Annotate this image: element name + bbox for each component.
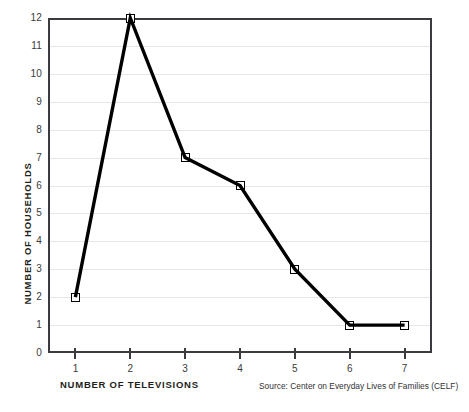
gridline	[50, 130, 430, 131]
gridline	[50, 297, 430, 298]
gridline	[50, 46, 430, 47]
line-chart: NUMBER OF HOUSEHOLDS 0123456789101112 12…	[0, 0, 469, 412]
x-tick-label: 2	[120, 363, 140, 374]
plot-area	[48, 18, 432, 353]
x-axis-title: NUMBER OF TELEVISIONS	[60, 379, 199, 390]
y-tick-label: 3	[8, 263, 42, 274]
y-axis-title: NUMBER OF HOUSEHOLDS	[22, 114, 33, 354]
y-tick-label: 10	[8, 68, 42, 79]
gridline	[50, 213, 430, 214]
y-tick-label: 2	[8, 291, 42, 302]
x-tick-mark	[294, 348, 296, 359]
x-tick-mark	[184, 348, 186, 359]
gridline	[50, 74, 430, 75]
x-tick-mark	[129, 348, 131, 359]
gridline	[50, 241, 430, 242]
x-tick-label: 3	[175, 363, 195, 374]
x-tick-label: 6	[340, 363, 360, 374]
gridline	[50, 325, 430, 326]
data-point-marker	[181, 153, 190, 162]
y-tick-label: 0	[8, 347, 42, 358]
source-note: Source: Center on Everyday Lives of Fami…	[259, 381, 458, 391]
y-tick-label: 9	[8, 96, 42, 107]
y-tick-label: 12	[8, 12, 42, 23]
y-tick-label: 4	[8, 235, 42, 246]
data-point-marker	[71, 293, 80, 302]
data-point-marker	[126, 14, 135, 23]
x-tick-label: 1	[65, 363, 85, 374]
plot-right-border	[430, 18, 432, 353]
y-tick-label: 11	[8, 40, 42, 51]
x-tick-mark	[239, 348, 241, 359]
y-tick-label: 5	[8, 207, 42, 218]
plot-top-border	[48, 18, 432, 20]
x-tick-label: 4	[230, 363, 250, 374]
data-point-marker	[290, 265, 299, 274]
gridline	[50, 158, 430, 159]
x-tick-label: 5	[285, 363, 305, 374]
data-point-marker	[400, 321, 409, 330]
gridline	[50, 102, 430, 103]
data-point-marker	[236, 181, 245, 190]
gridline	[50, 269, 430, 270]
y-tick-label: 1	[8, 319, 42, 330]
x-tick-label: 7	[395, 363, 415, 374]
data-point-marker	[345, 321, 354, 330]
y-tick-label: 6	[8, 180, 42, 191]
x-tick-mark	[74, 348, 76, 359]
x-tick-mark	[349, 348, 351, 359]
y-tick-label: 7	[8, 152, 42, 163]
x-tick-mark	[404, 348, 406, 359]
y-tick-label: 8	[8, 124, 42, 135]
